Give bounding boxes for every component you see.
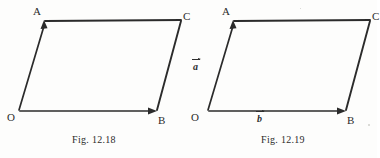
figure-caption: Fig. 12.19	[189, 134, 377, 145]
arrowhead-B	[337, 108, 346, 115]
edge-AC	[45, 20, 181, 21]
vector-label-a-text: a	[193, 61, 198, 72]
vertex-label-B: B	[347, 115, 355, 126]
vector-label-a: a	[193, 62, 198, 72]
edge-BC	[346, 21, 370, 110]
figure-12-19: A C O B a b Fig. 12.19	[189, 0, 377, 158]
vertex-label-A: A	[222, 6, 230, 17]
scan-speck	[368, 124, 370, 126]
vertex-label-C: C	[372, 11, 380, 22]
edge-AC	[234, 20, 370, 21]
vertex-label-O: O	[191, 112, 199, 123]
figure-caption: Fig. 12.18	[0, 134, 188, 145]
scan-speck	[300, 8, 301, 9]
vertex-label-A: A	[33, 6, 41, 17]
edge-OA	[208, 26, 233, 110]
figure-12-19-drawing	[189, 0, 377, 132]
edge-BC	[157, 21, 181, 110]
vector-label-b: b	[257, 114, 262, 124]
vector-label-b-text: b	[257, 113, 262, 124]
vertex-label-O: O	[7, 112, 15, 123]
arrowhead-B	[148, 108, 157, 115]
figure-12-18: A C O B Fig. 12.18	[0, 0, 188, 158]
edge-OA	[19, 26, 44, 110]
vertex-label-B: B	[158, 115, 166, 126]
figure-12-18-drawing	[0, 0, 188, 132]
